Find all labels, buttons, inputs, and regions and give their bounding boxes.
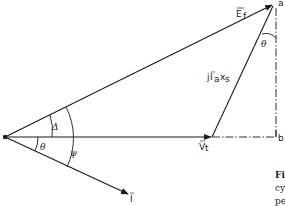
point-b-label: b (278, 133, 284, 143)
point-a-label: a (278, 0, 284, 8)
svg-text:a: a (214, 74, 220, 84)
svg-text:f: f (243, 11, 247, 21)
svg-text:I: I (210, 72, 213, 82)
phasor-diagram: E f a b j I a x s V t I Δ θ ψ θ Fi cy pe (0, 0, 285, 206)
caption-fragment-3: pe (275, 196, 285, 206)
svg-text:j: j (206, 72, 210, 82)
caption-fragment-2: cy (275, 183, 285, 193)
theta-lower-arc (35, 137, 38, 151)
svg-text:s: s (225, 74, 230, 84)
label-i: I (130, 193, 134, 204)
angle-theta-lower-label: θ (40, 142, 46, 152)
theta-upper-arc (262, 33, 276, 38)
angle-delta-label: Δ (51, 122, 59, 132)
label-vt: V t (199, 141, 209, 153)
svg-text:I: I (130, 194, 133, 204)
angle-psi-label: ψ (70, 148, 78, 158)
caption-fragment-1: Fi (275, 170, 285, 180)
svg-text:t: t (205, 143, 209, 153)
label-jiaxs: j I a x s (206, 72, 230, 84)
label-ef: E f (236, 8, 247, 21)
angle-theta-upper-label: θ (261, 39, 267, 49)
svg-text:E: E (236, 9, 242, 19)
phasor-ef (5, 5, 272, 137)
phasor-i (5, 137, 128, 194)
